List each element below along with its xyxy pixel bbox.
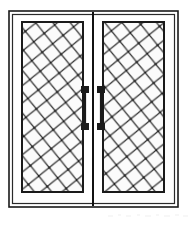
right-lattice-grille (103, 22, 164, 192)
left-handle-mount-top (81, 86, 89, 93)
left-lattice-grille (22, 22, 83, 192)
right-handle-mount-bottom (97, 123, 105, 130)
illustration-canvas (0, 0, 191, 226)
left-door-leaf[interactable] (15, 17, 90, 201)
right-handle-mount-top (97, 86, 105, 93)
left-handle-mount-bottom (81, 123, 89, 130)
double-door-illustration (0, 0, 191, 226)
right-door-leaf[interactable] (96, 17, 171, 201)
